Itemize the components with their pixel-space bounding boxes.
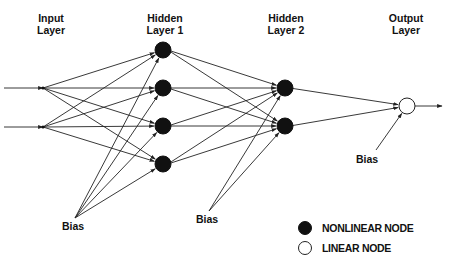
nonlinear-node (155, 42, 171, 58)
nonlinear-node (155, 80, 171, 96)
bias-label-hidden2: Bias (196, 213, 218, 225)
weight-edge (43, 88, 154, 123)
input-node (41, 125, 44, 128)
weight-edge (168, 88, 277, 123)
legend: NONLINEAR NODE LINEAR NODE (299, 222, 414, 255)
hidden-layer-2-title-line2: Layer 2 (268, 24, 305, 36)
bias-edge (376, 113, 402, 150)
bias-label-hidden1: Bias (62, 220, 84, 232)
bias-edge (75, 58, 159, 218)
hidden-layer-1-title-line2: Layer 1 (147, 24, 184, 36)
input-layer-title-line2: Layer (37, 24, 65, 36)
nonlinear-node (277, 80, 293, 96)
bias-label-output: Bias (356, 153, 378, 165)
weight-edge (168, 50, 277, 85)
input-layer-title-line1: Input (38, 12, 64, 24)
legend-label-linear: LINEAR NODE (322, 242, 391, 254)
bias-edge (75, 95, 158, 218)
input-node (41, 86, 44, 89)
nonlinear-node (155, 118, 171, 134)
nonlinear-node (277, 118, 293, 134)
layer-titles: Input Layer Hidden Layer 1 Hidden Layer … (37, 12, 424, 36)
hidden-layer-2-title-line1: Hidden (268, 12, 304, 24)
output-layer-title-line1: Output (389, 12, 424, 24)
weight-edge (43, 55, 155, 127)
weight-edge (290, 88, 398, 105)
legend-label-nonlinear: NONLINEAR NODE (322, 222, 414, 234)
linear-node-legend-icon (299, 242, 312, 255)
weight-edge (168, 91, 277, 126)
linear-node (399, 98, 415, 114)
neural-network-diagram: Input Layer Hidden Layer 1 Hidden Layer … (0, 0, 454, 264)
weight-edge (43, 91, 154, 127)
hidden-layer-1-title-line1: Hidden (147, 12, 183, 24)
weight-edge (168, 129, 277, 164)
weight-edge (43, 53, 154, 88)
nonlinear-node (155, 156, 171, 172)
bias-edge (209, 133, 279, 211)
weight-edge (43, 127, 154, 161)
nonlinear-node-legend-icon (299, 222, 312, 235)
output-layer-title-line2: Layer (392, 24, 420, 36)
connections (4, 50, 442, 218)
weight-edge (290, 108, 398, 126)
weight-edge (168, 50, 278, 121)
